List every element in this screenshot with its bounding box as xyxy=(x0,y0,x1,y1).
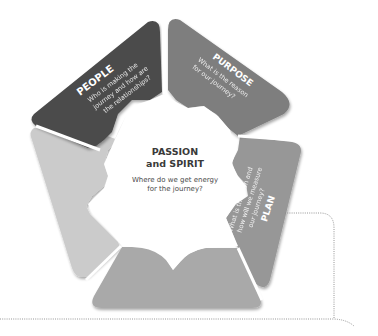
center-question-line-2: for the journey? xyxy=(147,185,203,193)
center-question-line-1: Where do we get energy xyxy=(132,176,218,184)
pentagon-diagram: PEOPLE Who is making the journey and how… xyxy=(0,0,378,336)
center-title-line-1: PASSION xyxy=(152,146,198,157)
center-title-line-2: and SPIRIT xyxy=(146,158,204,169)
divider-people-purpose xyxy=(163,22,164,94)
